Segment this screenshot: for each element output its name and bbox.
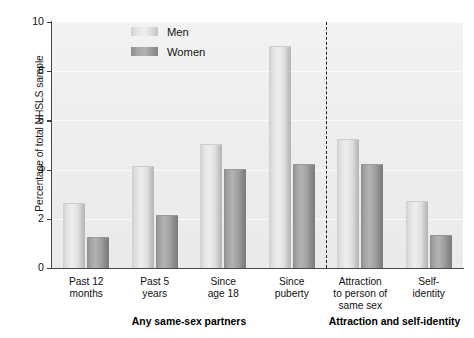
x-axis-label-line: same sex [321, 300, 399, 312]
legend-swatch-men-icon [131, 27, 158, 36]
x-axis-label-line: Self- [390, 276, 468, 288]
x-axis-category-label: Attractionto person ofsame sex [321, 276, 399, 313]
y-axis-tick [47, 170, 52, 171]
bar-men [406, 201, 428, 268]
y-axis-tick [47, 22, 52, 23]
bar-women [156, 215, 178, 268]
bar-men [200, 144, 222, 268]
x-axis-category-label: Past 12months [47, 276, 125, 300]
legend: Men Women [131, 23, 205, 63]
y-axis-tick [47, 71, 52, 72]
y-axis-tick-label: 8 [18, 64, 44, 76]
x-axis-category-label: Past 5years [116, 276, 194, 300]
x-axis-label-line: Attraction [321, 276, 399, 288]
y-axis-tick-label: 4 [18, 163, 44, 175]
gridline [52, 22, 463, 23]
x-axis-label-line: Past 12 [47, 276, 125, 288]
x-axis-category-label: Sincepuberty [253, 276, 331, 300]
gridline [52, 219, 463, 220]
y-axis-tick [47, 268, 52, 269]
y-axis-tick-label: 2 [18, 212, 44, 224]
x-axis-label-line: Since [253, 276, 331, 288]
y-axis-tick [47, 219, 52, 220]
y-axis-line [51, 21, 52, 269]
group-divider [326, 22, 327, 268]
bar-women [293, 164, 315, 268]
x-axis-label-line: identity [390, 288, 468, 300]
legend-label-women: Women [167, 46, 205, 58]
x-axis-label-line: Past 5 [116, 276, 194, 288]
legend-label-men: Men [167, 26, 189, 38]
x-axis-group-label: Any same-sex partners [132, 316, 246, 327]
bar-men [63, 203, 85, 268]
legend-swatch-women-icon [131, 47, 158, 56]
y-axis-tick [47, 120, 52, 121]
x-axis-line [51, 268, 464, 269]
y-axis-tick-label: 10 [18, 15, 44, 27]
x-axis-label-line: age 18 [184, 288, 262, 300]
legend-item-women: Women [131, 43, 205, 60]
bar-men [337, 139, 359, 268]
plot-area [52, 22, 463, 268]
x-axis-category-label: Sinceage 18 [184, 276, 262, 300]
x-axis-group-label: Attraction and self-identity [329, 316, 461, 327]
x-axis-category-label: Self-identity [390, 276, 468, 300]
x-axis-label-line: Since [184, 276, 262, 288]
x-axis-label-line: months [47, 288, 125, 300]
x-axis-label-line: years [116, 288, 194, 300]
bar-women [224, 169, 246, 268]
bar-men [132, 166, 154, 268]
bar-chart: Percentage of total NHSLS sample 0246810… [0, 0, 474, 338]
gridline [52, 120, 463, 121]
legend-item-men: Men [131, 23, 205, 40]
x-axis-label-line: puberty [253, 288, 331, 300]
y-axis-tick-label: 6 [18, 113, 44, 125]
bar-men [269, 46, 291, 268]
x-axis-label-line: to person of [321, 288, 399, 300]
bar-women [87, 237, 109, 268]
bar-women [430, 235, 452, 268]
bar-women [361, 164, 383, 268]
y-axis-tick-label: 0 [18, 261, 44, 273]
gridline [52, 71, 463, 72]
gridline [52, 170, 463, 171]
